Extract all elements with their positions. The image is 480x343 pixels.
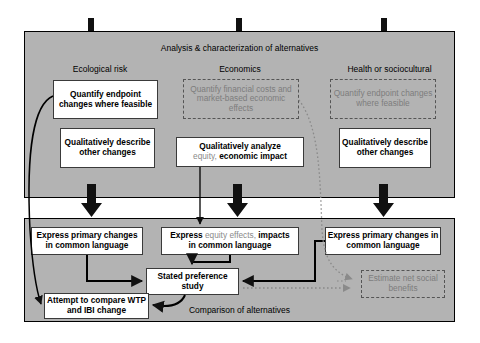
thick-arrow-health: [373, 184, 394, 217]
connector-express-left-to-stated: [87, 255, 142, 281]
connector-layer: [0, 0, 480, 343]
connector-stated-to-compare: [153, 295, 185, 306]
connector-express-equity-to-stated: [192, 255, 230, 264]
connector-financial-to-estimate-dotted: [299, 100, 352, 279]
diagram-canvas: Analysis & characterization of alternati…: [0, 0, 480, 343]
connector-express-right-to-stated: [243, 241, 325, 281]
thick-arrow-economics: [227, 184, 248, 217]
connector-endpoint-to-compare: [29, 96, 53, 304]
thick-arrow-ecological: [81, 184, 102, 217]
